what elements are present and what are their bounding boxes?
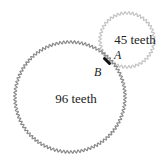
point-b-label: B [94, 65, 102, 79]
gear-diagram: 45 teeth 96 teeth A B [0, 0, 158, 162]
large-gear-label: 96 teeth [55, 91, 97, 106]
small-gear-label: 45 teeth [114, 32, 156, 47]
point-a-label: A [113, 48, 122, 62]
